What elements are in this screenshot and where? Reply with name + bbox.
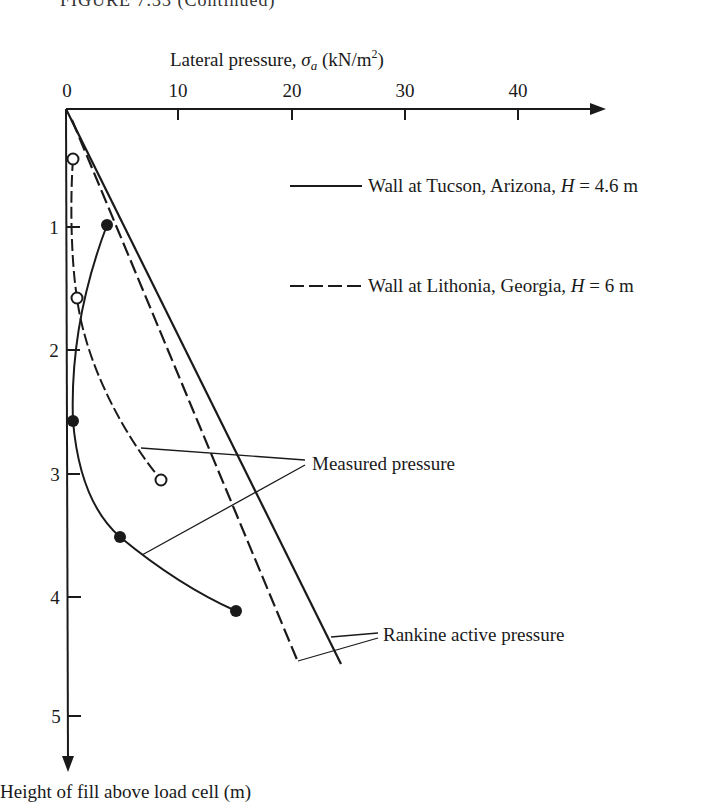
x-axis-title: Lateral pressure, σa (kN/m2) <box>170 47 384 73</box>
y-axis-title: Height of fill above load cell (m) <box>0 781 251 803</box>
markers-tucson <box>67 219 242 617</box>
y-tick-label: 1 <box>49 217 59 238</box>
y-tick-label: 4 <box>50 587 60 608</box>
rankine-line-tucson <box>66 109 341 664</box>
annotation-measured-label: Measured pressure <box>312 453 455 474</box>
open-circle-marker <box>68 154 79 165</box>
y-axis-arrow-icon <box>62 756 74 772</box>
y-tick-label: 5 <box>51 706 61 727</box>
chart: Lateral pressure, σa (kN/m2) 0 10 20 30 … <box>0 0 724 809</box>
open-circle-marker <box>156 475 167 486</box>
rankine-line-lithonia <box>72 120 298 662</box>
y-tick-label: 2 <box>49 340 59 361</box>
measured-curve-lithonia <box>71 159 161 480</box>
legend-label-tucson: Wall at Tucson, Arizona, H = 4.6 m <box>368 175 638 196</box>
x-tick-label: 30 <box>396 80 415 101</box>
x-tick-label: 20 <box>283 80 302 101</box>
annotation-measured-pressure: Measured pressure <box>141 448 455 555</box>
x-tick-labels: 0 10 20 30 40 <box>62 80 527 101</box>
annotation-rankine-label: Rankine active pressure <box>383 624 564 645</box>
legend-label-lithonia: Wall at Lithonia, Georgia, H = 6 m <box>368 275 634 296</box>
y-tick-label: 3 <box>50 464 60 485</box>
open-circle-marker <box>72 293 83 304</box>
filled-circle-marker <box>67 415 79 427</box>
y-tick-labels: 1 2 3 4 5 <box>49 217 61 727</box>
x-tick-label: 0 <box>62 80 72 101</box>
filled-circle-marker <box>114 531 126 543</box>
x-tick-label: 40 <box>509 80 528 101</box>
markers-lithonia <box>68 154 167 486</box>
filled-circle-marker <box>101 219 113 231</box>
measured-curve-tucson <box>73 225 236 611</box>
x-axis-arrow-icon <box>590 103 606 115</box>
legend: Wall at Tucson, Arizona, H = 4.6 m Wall … <box>290 175 638 296</box>
filled-circle-marker <box>230 605 242 617</box>
x-axis <box>66 109 595 120</box>
x-tick-label: 10 <box>169 80 188 101</box>
